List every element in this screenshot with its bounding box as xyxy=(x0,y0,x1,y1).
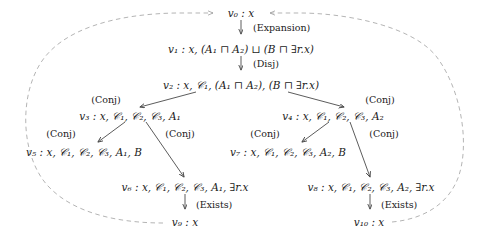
rule-label-conj-v3-right: (Conj) xyxy=(165,129,194,139)
edge-v2-v4 xyxy=(288,92,344,107)
rule-label-expansion-top: (Expansion) xyxy=(253,23,310,33)
edge-v2-v3 xyxy=(140,92,196,107)
edge-v4-v7 xyxy=(302,122,329,142)
node-v2: v₂ : x, 𝒞₁, (A₁ ⊓ A₂), (B ⊓ ∃r.x) xyxy=(163,80,319,91)
rule-label-exists-right: (Exists) xyxy=(381,200,417,210)
node-v6: v₆ : x, 𝒞₁, 𝒞₂, 𝒞₃, A₁, ∃r.x xyxy=(122,182,249,193)
node-v9: v₉ : x xyxy=(172,217,198,228)
node-v5: v₅ : x, 𝒞₁, 𝒞₂, 𝒞₃, A₁, B xyxy=(26,147,142,158)
node-v7: v₇ : x, 𝒞₁, 𝒞₂, 𝒞₃, A₂, B xyxy=(230,147,346,158)
node-v3: v₃ : x, 𝒞₁, 𝒞₂, 𝒞₃, A₁ xyxy=(79,111,180,122)
derivation-diagram: v₀ : x v₁ : x, (A₁ ⊓ A₂) ⊔ (B ⊓ ∃r.x) v₂… xyxy=(0,0,482,236)
node-v8: v₈ : x, 𝒞₁, 𝒞₂, 𝒞₃, A₂, ∃r.x xyxy=(308,182,435,193)
edge-v3-v5 xyxy=(98,122,125,142)
node-v1: v₁ : x, (A₁ ⊓ A₂) ⊔ (B ⊓ ∃r.x) xyxy=(168,44,314,55)
node-v0: v₀ : x xyxy=(228,8,254,19)
rule-label-disj: (Disj) xyxy=(253,59,279,69)
node-v4: v₄ : x, 𝒞₁, 𝒞₂, 𝒞₃, A₂ xyxy=(282,111,383,122)
rule-label-conj-v3-left: (Conj) xyxy=(46,129,75,139)
rule-label-conj-v2-left: (Conj) xyxy=(91,95,120,105)
rule-label-conj-v4-right: (Conj) xyxy=(369,129,398,139)
rule-label-exists-left: (Exists) xyxy=(196,200,232,210)
edge-v4-v8 xyxy=(350,122,370,177)
rule-label-conj-v4-left: (Conj) xyxy=(250,129,279,139)
rule-label-conj-v2-right: (Conj) xyxy=(365,95,394,105)
node-v10: v₁₀ : x xyxy=(354,217,385,228)
